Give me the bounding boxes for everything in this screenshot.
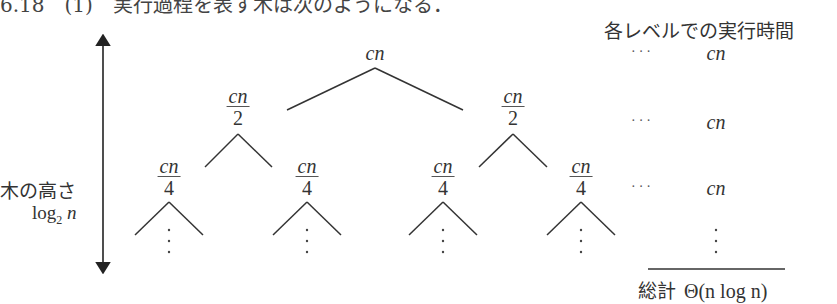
tree-node-l2-4: cn 4: [570, 156, 593, 198]
tree-node-l1-left: cn 2: [227, 86, 250, 128]
log-base: 2: [56, 213, 62, 227]
level-cost-1: cn: [707, 111, 726, 134]
denominator: 2: [227, 107, 250, 128]
tree-node-l2-3: cn 4: [432, 156, 455, 198]
tree-node-l1-right: cn 2: [502, 86, 525, 128]
denominator: 2: [502, 107, 525, 128]
per-level-cost-title: 各レベルでの実行時間: [604, 16, 794, 43]
tree-height-value: log2 n: [32, 202, 77, 228]
denominator: 4: [570, 177, 593, 198]
numerator: cn: [158, 156, 181, 177]
tree-height-label: 木の高さ: [0, 176, 76, 203]
log-text: log: [32, 202, 56, 223]
total-row: 総計 Θ(n log n): [638, 276, 767, 303]
tree-node-l2-2: cn 4: [296, 156, 319, 198]
numerator: cn: [502, 86, 525, 107]
denominator: 4: [158, 177, 181, 198]
numerator: cn: [296, 156, 319, 177]
total-label: 総計: [638, 280, 676, 302]
denominator: 4: [296, 177, 319, 198]
log-arg: n: [67, 202, 77, 223]
total-value: Θ(n log n): [684, 280, 767, 302]
numerator: cn: [570, 156, 593, 177]
row-dots: ···: [631, 179, 654, 195]
denominator: 4: [432, 177, 455, 198]
tree-node-l2-1: cn 4: [158, 156, 181, 198]
level-cost-2: cn: [707, 177, 726, 200]
numerator: cn: [227, 86, 250, 107]
row-dots: ···: [631, 44, 654, 60]
tree-root: cn: [366, 42, 385, 65]
row-dots: ···: [631, 113, 654, 129]
numerator: cn: [432, 156, 455, 177]
level-cost-0: cn: [707, 42, 726, 65]
